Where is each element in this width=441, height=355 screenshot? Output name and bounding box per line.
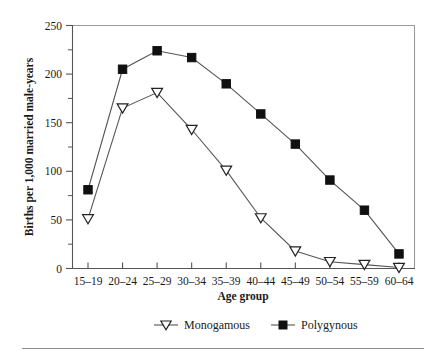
line-chart: 050100150200250 15–1920–2425–2930–3435–3… xyxy=(0,0,441,355)
x-tick-label: 15–19 xyxy=(74,275,103,287)
x-tick-label: 30–34 xyxy=(177,275,206,287)
figure-container: 050100150200250 15–1920–2425–2930–3435–3… xyxy=(0,0,441,355)
marker-filled-square xyxy=(257,110,265,118)
y-tick-label: 250 xyxy=(45,20,63,32)
legend-label: Polygynous xyxy=(301,318,358,332)
marker-filled-square xyxy=(84,186,92,194)
marker-filled-square xyxy=(291,140,299,148)
legend-label: Monogamous xyxy=(184,318,250,332)
x-tick-label: 25–29 xyxy=(143,275,172,287)
x-tick-label: 40–44 xyxy=(246,275,275,287)
y-tick-label: 150 xyxy=(45,117,63,129)
marker-filled-square xyxy=(222,80,230,88)
x-tick-label: 60–64 xyxy=(385,275,414,287)
x-tick-label: 45–49 xyxy=(281,275,310,287)
marker-filled-square xyxy=(395,250,403,258)
y-tick-label: 0 xyxy=(56,263,62,275)
marker-filled-square xyxy=(187,53,195,61)
marker-filled-square xyxy=(279,321,287,329)
marker-filled-square xyxy=(326,176,334,184)
y-tick-label: 200 xyxy=(45,68,63,80)
y-tick-label: 50 xyxy=(51,214,63,226)
x-tick-label: 35–39 xyxy=(212,275,241,287)
marker-filled-square xyxy=(118,65,126,73)
y-tick-label: 100 xyxy=(45,165,63,177)
x-axis-title: Age group xyxy=(217,290,268,303)
x-tick-label: 50–54 xyxy=(316,275,345,287)
x-tick-label: 20–24 xyxy=(108,275,137,287)
marker-filled-square xyxy=(360,206,368,214)
marker-filled-square xyxy=(153,47,161,55)
y-axis-title: Births per 1,000 married male-years xyxy=(23,57,36,236)
x-tick-label: 55–59 xyxy=(350,275,379,287)
